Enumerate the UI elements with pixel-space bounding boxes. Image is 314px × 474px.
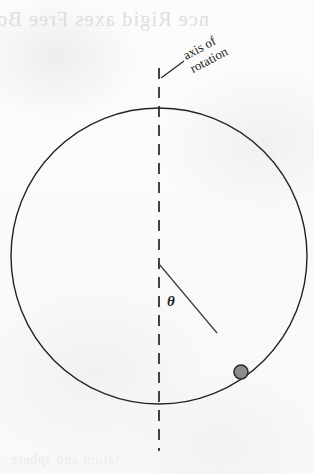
- theta-angle-label: θ: [167, 293, 175, 309]
- bead-marker: [234, 365, 248, 379]
- rotating-hoop-diagram: axis of rotation θ: [0, 0, 314, 474]
- figure-page: nce Rigid axes Free Bo axis of rotation …: [0, 0, 314, 474]
- axis-label-leader-line: [161, 61, 184, 78]
